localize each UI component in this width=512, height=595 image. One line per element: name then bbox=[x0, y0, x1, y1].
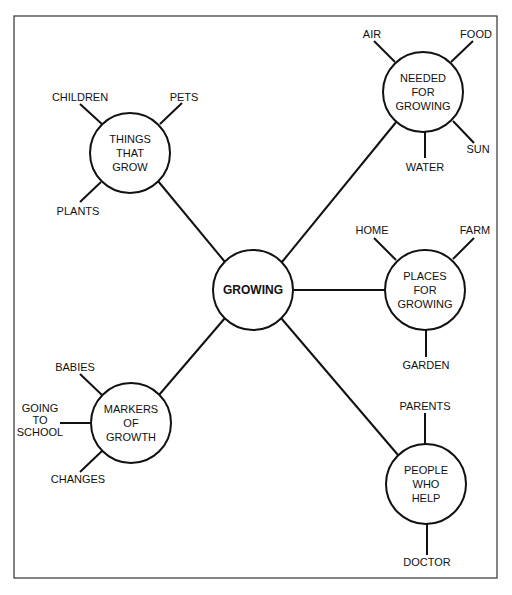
spoke-things-that-grow bbox=[158, 181, 225, 262]
concept-map: GROWING THINGSTHATGROWCHILDRENPETSPLANTS… bbox=[0, 0, 512, 595]
node-people-who-help[interactable]: PEOPLEWHOHELP bbox=[386, 444, 466, 524]
node-label-line: PEOPLE bbox=[404, 464, 448, 476]
leaf-label: FOOD bbox=[460, 28, 492, 40]
node-label-line: MARKERS bbox=[104, 403, 158, 415]
leaf-label: GOING bbox=[22, 402, 59, 414]
leaf-label: CHANGES bbox=[51, 473, 105, 485]
node-label-line: GROW bbox=[112, 161, 148, 173]
leaf-connector bbox=[80, 451, 102, 472]
leaf-label: AIR bbox=[363, 28, 381, 40]
leaf-connector bbox=[160, 103, 182, 124]
node-label-line: PLACES bbox=[403, 270, 446, 282]
node-label-line: THINGS bbox=[109, 133, 151, 145]
node-label-line: GROWING bbox=[398, 298, 453, 310]
leaf-connector bbox=[374, 238, 396, 260]
leaf-label: SUN bbox=[466, 143, 489, 155]
leaf-connector bbox=[80, 104, 103, 125]
node-label-line: NEEDED bbox=[400, 72, 446, 84]
spoke-markers-of-growth bbox=[159, 318, 225, 395]
leaf-label: HOME bbox=[356, 224, 389, 236]
leaf-label: PETS bbox=[170, 91, 199, 103]
spoke-needed-for-growing bbox=[282, 121, 397, 262]
leaf-label: BABIES bbox=[55, 361, 95, 373]
leaf-label: GARDEN bbox=[402, 359, 449, 371]
leaf-connector bbox=[374, 41, 395, 62]
spoke-people-who-help bbox=[281, 318, 398, 455]
leaf-label: DOCTOR bbox=[403, 556, 451, 568]
leaf-connector bbox=[451, 41, 473, 62]
center-node[interactable]: GROWING bbox=[213, 250, 293, 330]
leaf-connector bbox=[453, 121, 474, 143]
node-label-line: GROWING bbox=[396, 100, 451, 112]
node-label-line: FOR bbox=[411, 86, 434, 98]
node-label-line: WHO bbox=[413, 478, 440, 490]
leaf-label: SCHOOL bbox=[17, 426, 63, 438]
node-needed-for-growing[interactable]: NEEDEDFORGROWING bbox=[383, 52, 463, 132]
node-things-that-grow[interactable]: THINGSTHATGROW bbox=[90, 113, 170, 193]
leaf-label: PARENTS bbox=[399, 400, 450, 412]
node-label-line: GROWTH bbox=[106, 431, 156, 443]
center-node-label: GROWING bbox=[223, 283, 283, 297]
node-label-line: HELP bbox=[412, 492, 441, 504]
leaf-connector bbox=[80, 182, 101, 202]
node-places-for-growing[interactable]: PLACESFORGROWING bbox=[385, 250, 465, 330]
leaf-connector bbox=[80, 374, 102, 395]
node-markers-of-growth[interactable]: MARKERSOFGROWTH bbox=[91, 383, 171, 463]
node-label-line: THAT bbox=[116, 147, 144, 159]
node-label-line: FOR bbox=[413, 284, 436, 296]
leaf-label: CHILDREN bbox=[52, 91, 108, 103]
leaf-label: WATER bbox=[406, 161, 445, 173]
node-label-line: OF bbox=[123, 417, 139, 429]
leaf-connector bbox=[453, 238, 474, 259]
leaf-label: TO bbox=[32, 414, 48, 426]
leaf-label: FARM bbox=[460, 224, 491, 236]
leaf-label: PLANTS bbox=[57, 205, 100, 217]
